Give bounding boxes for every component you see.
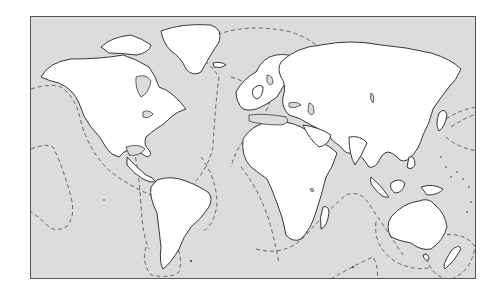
australia [388, 200, 447, 250]
sumatra-java [371, 177, 390, 197]
pacific-east-loop [31, 145, 73, 229]
map-canvas [31, 17, 476, 279]
new-guinea [421, 185, 443, 195]
nw-pacific-lines [446, 107, 476, 151]
canadian-arctic-islands [101, 35, 151, 55]
iceland [213, 62, 226, 67]
lake-victoria [310, 188, 314, 191]
indonesia-borneo [391, 180, 406, 193]
tasmania [423, 255, 429, 261]
world-map [30, 16, 476, 279]
landmasses [41, 25, 461, 269]
central-america [127, 157, 156, 182]
mediterranean [249, 114, 288, 125]
south-america [151, 178, 211, 269]
new-zealand [444, 246, 461, 269]
south-indian-triangle [331, 257, 378, 279]
japan [437, 110, 447, 131]
madagascar [320, 207, 329, 229]
north-atlantic-east [211, 28, 316, 45]
north-america [41, 55, 186, 157]
